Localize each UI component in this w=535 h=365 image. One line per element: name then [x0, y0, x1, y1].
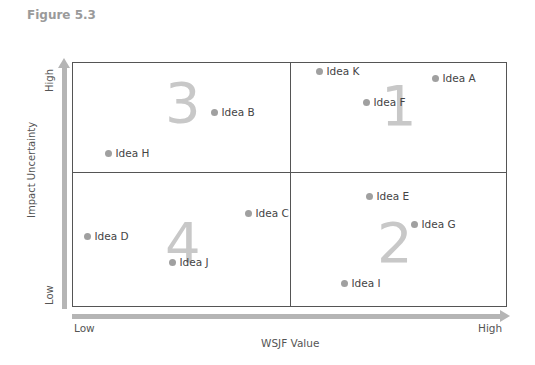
y-axis-arrow: [62, 66, 67, 309]
x-axis-title: WSJF Value: [261, 337, 319, 349]
vertical-divider: [290, 62, 291, 307]
quadrant-3-number: 3: [165, 75, 201, 131]
y-axis-arrowhead-icon: [58, 58, 70, 68]
idea-point: Idea D: [84, 230, 129, 242]
idea-label: Idea H: [116, 147, 150, 159]
quadrant-2-number: 2: [377, 215, 413, 271]
idea-label: Idea E: [377, 190, 410, 202]
figure-title: Figure 5.3: [27, 8, 96, 22]
point-marker-icon: [432, 75, 439, 82]
idea-label: Idea K: [327, 65, 360, 77]
idea-label: Idea C: [256, 207, 289, 219]
idea-point: Idea E: [366, 190, 410, 202]
idea-point: Idea G: [411, 218, 456, 230]
x-axis-low-label: Low: [74, 322, 95, 334]
y-axis-low-label: Low: [44, 285, 55, 305]
horizontal-divider: [72, 172, 507, 173]
idea-point: Idea I: [341, 277, 381, 289]
point-marker-icon: [245, 210, 252, 217]
point-marker-icon: [363, 99, 370, 106]
point-marker-icon: [105, 150, 112, 157]
idea-label: Idea D: [95, 230, 129, 242]
idea-label: Idea F: [374, 96, 406, 108]
x-axis-high-label: High: [478, 322, 502, 334]
idea-point: Idea K: [316, 65, 360, 77]
idea-point: Idea C: [245, 207, 289, 219]
x-axis-arrow: [72, 314, 502, 319]
y-axis-title: Impact Uncertainty: [26, 122, 37, 218]
idea-point: Idea J: [169, 256, 209, 268]
idea-point: Idea F: [363, 96, 406, 108]
y-axis-high-label: High: [44, 69, 55, 92]
point-marker-icon: [169, 259, 176, 266]
idea-label: Idea B: [222, 106, 255, 118]
point-marker-icon: [341, 280, 348, 287]
idea-point: Idea B: [211, 106, 255, 118]
idea-label: Idea J: [180, 256, 209, 268]
idea-label: Idea I: [352, 277, 381, 289]
point-marker-icon: [211, 109, 218, 116]
idea-point: Idea A: [432, 72, 476, 84]
point-marker-icon: [366, 193, 373, 200]
point-marker-icon: [411, 221, 418, 228]
idea-label: Idea A: [443, 72, 476, 84]
idea-label: Idea G: [422, 218, 456, 230]
point-marker-icon: [84, 233, 91, 240]
point-marker-icon: [316, 68, 323, 75]
idea-point: Idea H: [105, 147, 150, 159]
x-axis-arrowhead-icon: [500, 310, 510, 322]
